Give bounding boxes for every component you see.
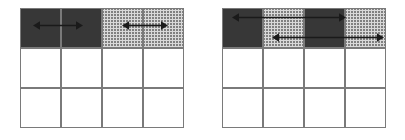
left-grid-cell-r0-c3[interactable] <box>143 8 184 48</box>
right-grid <box>222 8 386 128</box>
left-grid-cell-r2-c1[interactable] <box>61 88 102 128</box>
right-grid-cell-r1-c3[interactable] <box>345 48 386 88</box>
right-grid-cell-r2-c3[interactable] <box>345 88 386 128</box>
right-grid-cell-r0-c3[interactable] <box>345 8 386 48</box>
left-grid-cell-r2-c2[interactable] <box>102 88 143 128</box>
right-grid-cell-r2-c1[interactable] <box>263 88 304 128</box>
left-grid-cell-r1-c2[interactable] <box>102 48 143 88</box>
left-grid-cell-r2-c0[interactable] <box>20 88 61 128</box>
left-grid-cell-r1-c0[interactable] <box>20 48 61 88</box>
right-grid-cell-r1-c0[interactable] <box>222 48 263 88</box>
right-grid-cell-r1-c2[interactable] <box>304 48 345 88</box>
right-grid-cell-r2-c2[interactable] <box>304 88 345 128</box>
right-grid-cell-r0-c2[interactable] <box>304 8 345 48</box>
left-grid-cell-r0-c2[interactable] <box>102 8 143 48</box>
left-grid-cell-r0-c1[interactable] <box>61 8 102 48</box>
left-grid-cell-r1-c3[interactable] <box>143 48 184 88</box>
right-grid-cell-r2-c0[interactable] <box>222 88 263 128</box>
right-grid-cell-r0-c1[interactable] <box>263 8 304 48</box>
right-grid-cell-r0-c0[interactable] <box>222 8 263 48</box>
left-grid-cell-r2-c3[interactable] <box>143 88 184 128</box>
left-grid-cell-r0-c0[interactable] <box>20 8 61 48</box>
left-grid-cell-r1-c1[interactable] <box>61 48 102 88</box>
diagram-canvas <box>0 0 405 140</box>
left-grid <box>20 8 184 128</box>
right-grid-cell-r1-c1[interactable] <box>263 48 304 88</box>
